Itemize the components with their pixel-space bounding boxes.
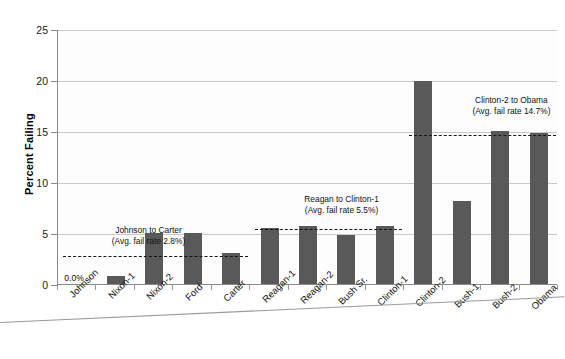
bar-bush-sr [337,235,355,284]
x-tick-mark [95,285,96,290]
annotation-line-1: Johnson to Carter [89,225,209,236]
x-tick-mark [57,285,58,290]
average-line-clinton2-to-obama [409,135,556,136]
annotation-johnson-to-carter: Johnson to Carter(Avg. fail rate 2.8%) [89,225,209,247]
annotation-line-2: (Avg. fail rate 14.7%) [451,106,565,117]
bar-bush-2 [491,131,509,284]
gridline [58,81,557,82]
x-tick-mark [442,285,443,290]
annotation-clinton2-to-obama: Clinton-2 to Obama(Avg. fail rate 14.7%) [451,95,565,117]
bar-reagan-2 [299,226,317,284]
x-tick-mark [326,285,327,290]
annotation-line-2: (Avg. fail rate 2.8%) [89,236,209,247]
average-line-reagan-to-clinton1 [255,229,402,230]
bar-chart: Percent Failing 0510152025 JohnsonNixon-… [0,0,565,359]
x-tick-mark [288,285,289,290]
x-tick-mark [403,285,404,290]
x-tick-mark [249,285,250,290]
annotation-reagan-to-clinton1: Reagan to Clinton-1(Avg. fail rate 5.5%) [282,194,402,216]
bar-bush-1 [453,201,471,284]
average-line-johnson-to-carter [63,256,249,257]
bar-clinton-1 [376,226,394,284]
x-tick-mark [172,285,173,290]
x-tick-label-bush-2: Bush-2 [490,282,519,311]
annotation-line-2: (Avg. fail rate 5.5%) [282,205,402,216]
x-tick-mark [480,285,481,290]
x-tick-mark [211,285,212,290]
x-tick-mark [557,285,558,290]
gridline [58,183,557,184]
y-tick-label: 25 [6,24,48,36]
x-tick-label-bush-1: Bush-1 [452,281,481,310]
y-tick-label: 15 [6,126,48,138]
x-axis-slant-rule [0,296,564,323]
bar-clinton-2 [414,81,432,284]
y-tick-label: 10 [6,177,48,189]
gridline [58,132,557,133]
x-tick-mark [519,285,520,290]
x-tick-mark [365,285,366,290]
y-tick-label: 5 [6,228,48,240]
gridline [58,30,557,31]
annotation-line-1: Reagan to Clinton-1 [282,194,402,205]
x-tick-mark [134,285,135,290]
y-axis-title: Percent Failing [23,94,35,214]
bar-reagan-1 [261,228,279,284]
annotation-line-1: Clinton-2 to Obama [451,95,565,106]
y-tick-label: 20 [6,75,48,87]
data-label-johnson: 0.0% [64,273,84,283]
bar-obama [530,133,548,284]
y-tick-label: 0 [6,279,48,291]
